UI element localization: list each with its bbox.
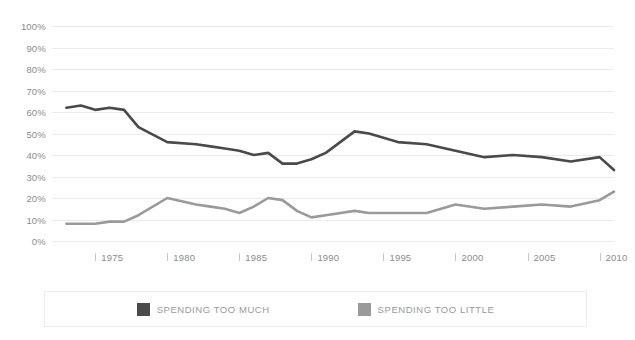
x-tick-label: 1990 — [317, 252, 339, 263]
legend-swatch-spending-too-much — [137, 303, 150, 316]
x-tick-label: 2010 — [606, 252, 628, 263]
series-line — [66, 192, 614, 224]
legend-item[interactable]: SPENDING TOO LITTLE — [358, 303, 495, 316]
y-tick-label: 30% — [26, 171, 46, 182]
y-axis: 0%10%20%30%40%50%60%70%80%90%100% — [0, 26, 46, 241]
x-tick-mark — [455, 253, 456, 261]
y-tick-label: 80% — [26, 64, 46, 75]
y-tick-label: 60% — [26, 107, 46, 118]
y-tick-label: 20% — [26, 193, 46, 204]
legend-item-label: SPENDING TOO LITTLE — [378, 304, 495, 315]
x-axis: 19751980198519901995200020052010 — [0, 241, 635, 271]
series-line — [66, 106, 614, 171]
y-tick-label: 40% — [26, 150, 46, 161]
x-tick-mark — [528, 253, 529, 261]
line-chart: 0%10%20%30%40%50%60%70%80%90%100% 197519… — [0, 0, 635, 340]
y-tick-label: 50% — [26, 128, 46, 139]
plot-area — [52, 26, 614, 241]
x-tick-mark — [383, 253, 384, 261]
x-tick-mark — [95, 253, 96, 261]
x-tick-label: 2005 — [534, 252, 556, 263]
series-lines — [52, 26, 614, 241]
x-tick-label: 2000 — [461, 252, 483, 263]
legend-item-label: SPENDING TOO MUCH — [157, 304, 270, 315]
x-tick-mark — [600, 253, 601, 261]
y-tick-label: 70% — [26, 85, 46, 96]
legend-item[interactable]: SPENDING TOO MUCH — [137, 303, 270, 316]
chart-legend: SPENDING TOO MUCHSPENDING TOO LITTLE — [44, 291, 587, 327]
x-tick-mark — [167, 253, 168, 261]
y-tick-label: 100% — [21, 21, 46, 32]
x-tick-mark — [311, 253, 312, 261]
x-tick-label: 1980 — [173, 252, 195, 263]
x-tick-label: 1985 — [245, 252, 267, 263]
x-tick-label: 1995 — [389, 252, 411, 263]
y-tick-label: 90% — [26, 42, 46, 53]
x-tick-mark — [239, 253, 240, 261]
y-tick-label: 10% — [26, 214, 46, 225]
x-tick-label: 1975 — [101, 252, 123, 263]
legend-swatch-spending-too-little — [358, 303, 371, 316]
